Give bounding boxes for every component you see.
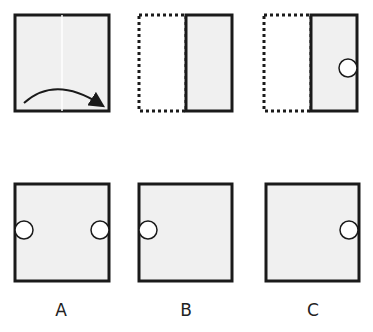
hole-left [139, 221, 157, 239]
punched-hole [339, 59, 357, 77]
step-2-folded-sheet [139, 15, 232, 111]
paper-folding-diagram [0, 0, 373, 332]
option-b-label: B [171, 300, 201, 320]
original-half-outline [264, 15, 311, 111]
original-half-outline [139, 15, 186, 111]
option-b[interactable] [139, 184, 232, 281]
hole-left [15, 221, 33, 239]
hole-right [91, 221, 109, 239]
hole-right [340, 221, 358, 239]
option-c[interactable] [266, 184, 359, 281]
option-a[interactable] [15, 184, 109, 281]
option-c-label: C [298, 300, 328, 320]
option-a-label: A [46, 300, 76, 320]
step-1-unfolded-sheet [15, 15, 109, 111]
step-3-punched-sheet [264, 15, 357, 111]
